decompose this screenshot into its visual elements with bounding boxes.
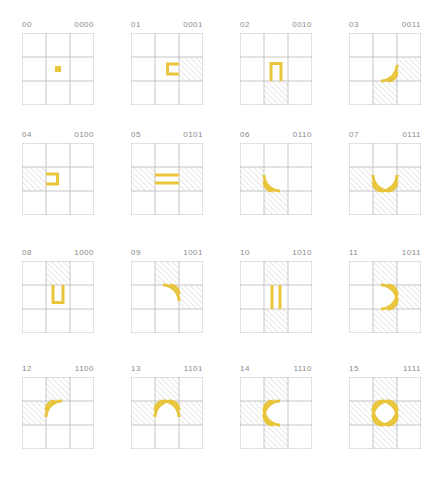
tile-00: 000000 bbox=[22, 33, 94, 105]
connector-shape bbox=[264, 401, 280, 425]
tile-08: 081000 bbox=[22, 261, 94, 333]
tile-index: 09 bbox=[131, 248, 141, 257]
tile-bits: 1010 bbox=[292, 248, 312, 257]
hatched-neighbor-left bbox=[349, 401, 373, 425]
tile-index: 02 bbox=[240, 20, 250, 29]
hatched-neighbor-right bbox=[397, 167, 421, 191]
tile-diagram bbox=[240, 261, 312, 333]
tile-04: 040100 bbox=[22, 143, 94, 215]
tile-index: 12 bbox=[22, 364, 32, 373]
hatched-neighbor-top bbox=[155, 377, 179, 401]
tile-bits: 1100 bbox=[75, 364, 94, 373]
tile-bits: 1000 bbox=[74, 248, 94, 257]
connector-shape bbox=[46, 174, 58, 184]
tile-diagram bbox=[22, 377, 94, 449]
tile-07: 070111 bbox=[349, 143, 421, 215]
tile-diagram bbox=[131, 143, 203, 215]
tile-diagram bbox=[131, 377, 203, 449]
tile-index: 01 bbox=[131, 20, 141, 29]
tile-diagram bbox=[22, 33, 94, 105]
hatched-neighbor-bottom bbox=[373, 191, 397, 215]
hatched-neighbor-top bbox=[155, 261, 179, 285]
tile-index: 03 bbox=[349, 20, 359, 29]
hatched-neighbor-bottom bbox=[373, 425, 397, 449]
tile-11: 111011 bbox=[349, 261, 421, 333]
tile-03: 030011 bbox=[349, 33, 421, 105]
connector-shape bbox=[46, 401, 62, 417]
hatched-neighbor-right bbox=[179, 167, 203, 191]
tile-bits: 1001 bbox=[183, 248, 203, 257]
tile-diagram bbox=[349, 377, 421, 449]
tile-index: 10 bbox=[240, 248, 250, 257]
tile-index: 04 bbox=[22, 130, 32, 139]
tile-diagram bbox=[22, 261, 94, 333]
tile-05: 050101 bbox=[131, 143, 203, 215]
hatched-neighbor-right bbox=[179, 285, 203, 309]
connector-shape bbox=[53, 285, 63, 303]
hatched-neighbor-bottom bbox=[373, 309, 397, 333]
hatched-neighbor-bottom bbox=[373, 81, 397, 105]
tile-bits: 1011 bbox=[402, 248, 421, 257]
tile-bits: 0011 bbox=[402, 20, 421, 29]
hatched-neighbor-bottom bbox=[264, 81, 288, 105]
tile-diagram bbox=[349, 143, 421, 215]
hatched-neighbor-left bbox=[22, 167, 46, 191]
connector-shape bbox=[168, 64, 180, 74]
tile-diagram bbox=[131, 261, 203, 333]
hatched-neighbor-top bbox=[373, 377, 397, 401]
tile-index: 07 bbox=[349, 130, 359, 139]
tile-index: 05 bbox=[131, 130, 141, 139]
tile-diagram bbox=[240, 33, 312, 105]
tile-diagram bbox=[349, 33, 421, 105]
hatched-neighbor-bottom bbox=[264, 425, 288, 449]
tile-02: 020010 bbox=[240, 33, 312, 105]
hatched-neighbor-bottom bbox=[264, 309, 288, 333]
tile-bits: 0100 bbox=[74, 130, 94, 139]
connector-shape bbox=[55, 66, 61, 72]
tile-14: 141110 bbox=[240, 377, 312, 449]
tile-12: 121100 bbox=[22, 377, 94, 449]
hatched-neighbor-left bbox=[240, 167, 264, 191]
connector-shape bbox=[373, 401, 397, 425]
tile-index: 15 bbox=[349, 364, 359, 373]
hatched-neighbor-left bbox=[131, 167, 155, 191]
connector-shape bbox=[381, 285, 397, 309]
tile-bits: 1111 bbox=[403, 364, 421, 373]
tile-index: 14 bbox=[240, 364, 250, 373]
hatched-neighbor-top bbox=[46, 261, 70, 285]
hatched-neighbor-top bbox=[373, 261, 397, 285]
connector-shape bbox=[272, 285, 280, 309]
tile-bits: 1110 bbox=[293, 364, 312, 373]
hatched-neighbor-top bbox=[264, 377, 288, 401]
tile-bits: 0001 bbox=[183, 20, 203, 29]
tile-bits: 0000 bbox=[74, 20, 94, 29]
tile-bits: 0010 bbox=[292, 20, 312, 29]
tile-bits: 0101 bbox=[183, 130, 203, 139]
tile-diagram bbox=[240, 143, 312, 215]
connector-shape bbox=[264, 175, 280, 191]
tile-10: 101010 bbox=[240, 261, 312, 333]
hatched-neighbor-right bbox=[397, 401, 421, 425]
hatched-neighbor-top bbox=[264, 261, 288, 285]
tile-bits: 1101 bbox=[184, 364, 203, 373]
hatched-neighbor-right bbox=[179, 57, 203, 81]
connector-shape bbox=[271, 64, 281, 82]
tile-index: 13 bbox=[131, 364, 141, 373]
tile-09: 091001 bbox=[131, 261, 203, 333]
hatched-neighbor-right bbox=[397, 57, 421, 81]
tile-13: 131101 bbox=[131, 377, 203, 449]
tile-01: 010001 bbox=[131, 33, 203, 105]
tile-bits: 0110 bbox=[293, 130, 312, 139]
tile-15: 151111 bbox=[349, 377, 421, 449]
connector-shape bbox=[155, 401, 179, 417]
tile-diagram bbox=[22, 143, 94, 215]
hatched-neighbor-bottom bbox=[264, 191, 288, 215]
tile-bits: 0111 bbox=[402, 130, 421, 139]
hatched-neighbor-left bbox=[240, 401, 264, 425]
tile-diagram bbox=[131, 33, 203, 105]
connector-shape bbox=[381, 65, 397, 81]
connector-shape bbox=[163, 285, 179, 301]
hatched-neighbor-top bbox=[46, 377, 70, 401]
connector-shape bbox=[373, 175, 397, 191]
tile-diagram bbox=[240, 377, 312, 449]
